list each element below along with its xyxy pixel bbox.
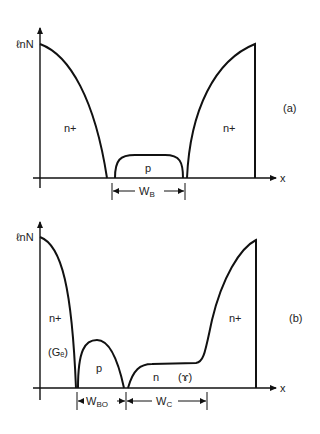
region-label-n-plus-right-b: n+ [229, 312, 242, 324]
region-label-n-plus-left-a: n+ [64, 122, 77, 134]
wc-label: W [156, 395, 167, 407]
panel-label-a: (a) [283, 102, 296, 114]
region-label-ge-b: (Gₑ) [48, 346, 68, 358]
width-dimension-wbo: WBO [77, 392, 126, 410]
wb-label: W [139, 185, 150, 197]
region-label-p-b: p [96, 362, 102, 374]
x-axis-label-b: x [280, 382, 286, 394]
region-label-n-plus-left-b: n+ [49, 312, 62, 324]
region-label-n-plus-right-a: n+ [223, 122, 236, 134]
svg-text:WC: WC [156, 395, 172, 409]
svg-text:WB: WB [139, 185, 155, 199]
figure-b: ℓnN x n+ (Gₑ) p n (ɤ) n+ (b) WBO WC [16, 222, 302, 410]
figure-a: ℓnN x n+ p n+ (a) WB [16, 28, 296, 200]
svg-text:WBO: WBO [86, 395, 108, 409]
y-axis-label-a: ℓnN [16, 38, 34, 50]
emitter-profile-a [40, 44, 107, 178]
region-label-n-b: n [153, 371, 159, 383]
panel-label-b: (b) [289, 312, 302, 324]
collector-profile-a [187, 44, 255, 178]
width-dimension-wb: WB [112, 183, 185, 200]
width-dimension-wc: WC [127, 392, 207, 410]
y-axis-label-b: ℓnN [16, 231, 34, 243]
wb-subscript: B [149, 190, 154, 199]
wc-subscript: C [166, 400, 172, 409]
wbo-label: W [86, 395, 97, 407]
wbo-subscript: BO [96, 400, 108, 409]
region-label-gamma-b: (ɤ) [178, 371, 192, 383]
region-label-p-a: p [145, 162, 151, 174]
x-axis-label-a: x [280, 172, 286, 184]
doping-profile-diagrams: ℓnN x n+ p n+ (a) WB ℓnN x n+ (Gₑ) p n [0, 0, 320, 434]
